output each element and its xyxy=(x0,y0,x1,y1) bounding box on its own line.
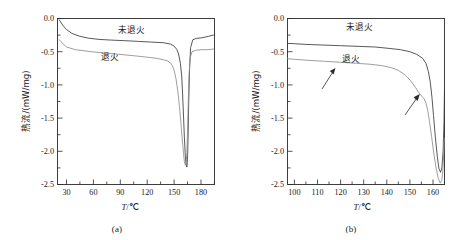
curve-annealed xyxy=(288,59,445,183)
y-tick-label: -2.5 xyxy=(271,180,284,189)
panel-a-axes xyxy=(58,19,215,185)
y-tick-label: -1.0 xyxy=(271,81,284,90)
y-axis-label: 热流/(mW/mg) xyxy=(250,70,261,131)
panel-b-caption: (b) xyxy=(234,224,468,234)
plot-frame xyxy=(58,19,215,185)
annotation-annealed: 退火 xyxy=(101,52,119,62)
y-tick-label: -2.0 xyxy=(271,147,284,156)
x-axis-label: T/℃ xyxy=(353,202,370,212)
panel-b: 0.0 -0.5 -1.0 -1.5 -2.0 -2.5 xyxy=(234,0,468,240)
panel-b-plot: 0.0 -0.5 -1.0 -1.5 -2.0 -2.5 xyxy=(234,0,468,240)
y-tickmarks xyxy=(58,19,63,185)
panel-a-caption: (a) xyxy=(0,224,234,234)
x-tickmarks xyxy=(67,180,215,185)
x-tick-label: 100 xyxy=(288,188,300,197)
x-tick-label: 60 xyxy=(89,188,97,197)
curve-annealed xyxy=(59,40,213,165)
arrow-shoulder-low-temperature xyxy=(322,68,336,89)
curve-unannealed xyxy=(288,43,445,172)
x-tick-label: 30 xyxy=(62,188,70,197)
arrow-shoulder-pre-melting xyxy=(405,94,420,115)
annotation-unannealed: 未退火 xyxy=(118,24,145,35)
x-tick-label: 140 xyxy=(381,188,393,197)
x-tick-label: 120 xyxy=(141,188,153,197)
x-tick-label: 150 xyxy=(168,188,180,197)
y-tick-label: -1.0 xyxy=(41,81,54,90)
y-tick-label: -0.5 xyxy=(41,48,54,57)
x-tick-label: 110 xyxy=(312,188,324,197)
plot-frame xyxy=(288,19,445,185)
panel-a: 0.0 -0.5 -1.0 -1.5 -2.0 -2.5 30 xyxy=(0,0,234,240)
x-tickmarks xyxy=(294,180,444,185)
y-tick-label: 0.0 xyxy=(44,14,54,23)
dsc-figure: 0.0 -0.5 -1.0 -1.5 -2.0 -2.5 30 xyxy=(0,0,468,240)
y-tick-label: -2.0 xyxy=(41,147,54,156)
x-axis-label: T/℃ xyxy=(121,202,138,212)
panel-b-axes xyxy=(288,19,445,185)
x-tick-label: 150 xyxy=(404,188,416,197)
x-tick-label: 90 xyxy=(116,188,124,197)
annotation-unannealed: 未退火 xyxy=(346,21,373,32)
x-tick-label: 130 xyxy=(358,188,370,197)
x-tick-label: 180 xyxy=(195,188,207,197)
x-tick-label: 120 xyxy=(334,188,346,197)
y-tick-label: -0.5 xyxy=(271,48,284,57)
x-tick-label: 160 xyxy=(427,188,439,197)
annotation-annealed: 退火 xyxy=(342,54,360,64)
curve-unannealed xyxy=(59,20,213,167)
y-tick-label: -1.5 xyxy=(41,114,54,123)
panel-a-plot: 0.0 -0.5 -1.0 -1.5 -2.0 -2.5 30 xyxy=(0,0,234,240)
y-tick-label: 0.0 xyxy=(274,14,284,23)
y-axis-label: 热流/(mW/mg) xyxy=(20,70,31,131)
y-tick-label: -1.5 xyxy=(271,114,284,123)
y-tick-label: -2.5 xyxy=(41,180,54,189)
